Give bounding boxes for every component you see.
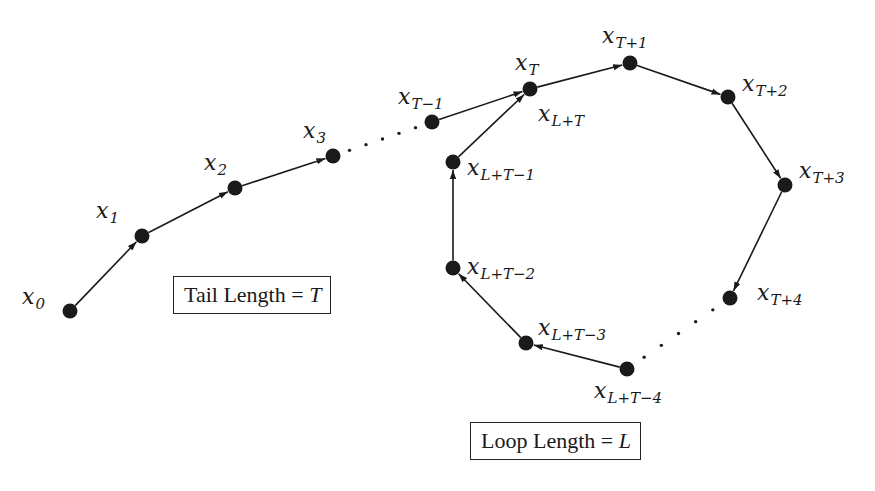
node-xL+T-1 <box>446 155 461 170</box>
node-xL+T-4 <box>620 362 635 377</box>
loop-length-text: Loop Length = <box>481 428 619 453</box>
node-label-x3: x3 <box>303 120 326 146</box>
edge-arrow-xT-1-to-xT <box>439 92 522 120</box>
edge-arrow-xT+3-to-xT+4 <box>734 192 782 291</box>
node-x0 <box>63 304 78 319</box>
node-label-x0: x0 <box>22 286 45 312</box>
node-x1 <box>135 229 150 244</box>
edge-arrow-xL+T-4-to-xL+T-3 <box>534 345 620 367</box>
tail-length-variable: T <box>309 282 321 307</box>
edge-arrow-xT-to-xT+1 <box>537 65 622 87</box>
node-label-xT+4: xT+4 <box>757 282 803 308</box>
node-xT+1 <box>623 56 638 71</box>
edge-arrow-xL+T-1-to-xT <box>458 95 524 157</box>
edge-arrow-xT+2-to-xT+3 <box>732 103 781 178</box>
node-label-xT-1: xT−1 <box>398 86 444 112</box>
node-xT+4 <box>723 291 738 306</box>
loop-length-variable: L <box>619 428 631 453</box>
node-label-xT+3: xT+3 <box>799 160 845 186</box>
tail-length-text: Tail Length = <box>184 282 309 307</box>
edge-dotted-x3-to-xT-1 <box>348 126 417 152</box>
edge-arrow-xT+1-to-xT+2 <box>637 65 720 94</box>
node-label-xT+1: xT+1 <box>602 25 648 51</box>
edge-arrow-x1-to-x2 <box>149 192 228 233</box>
node-label-xL+T: xL+T <box>538 103 584 129</box>
edge-arrow-xL+T-3-to-xL+T-2 <box>459 274 521 338</box>
loop-length-box: Loop Length = L <box>470 422 641 460</box>
edge-arrow-x2-to-x3 <box>242 158 325 185</box>
node-x2 <box>228 181 243 196</box>
node-xT <box>523 82 538 97</box>
node-xT-1 <box>425 115 440 130</box>
edge-dotted-xT+4-to-xL+T-4 <box>642 308 714 359</box>
node-label-xT: xT <box>515 52 538 78</box>
node-xL+T-2 <box>446 261 461 276</box>
node-label-xL+T-2: xL+T−2 <box>467 256 535 282</box>
node-xT+3 <box>778 178 793 193</box>
node-xL+T-3 <box>519 336 534 351</box>
node-label-x1: x1 <box>96 200 119 226</box>
node-x3 <box>326 149 341 164</box>
edge-arrow-x0-to-x1 <box>75 242 136 306</box>
node-label-xL+T-4: xL+T−4 <box>594 380 662 406</box>
node-label-xL+T-3: xL+T−3 <box>538 317 606 343</box>
tail-length-box: Tail Length = T <box>173 276 331 314</box>
node-label-xL+T-1: xL+T−1 <box>467 157 535 183</box>
node-label-xT+2: xT+2 <box>742 73 788 99</box>
node-xT+2 <box>721 90 736 105</box>
node-label-x2: x2 <box>204 152 227 178</box>
